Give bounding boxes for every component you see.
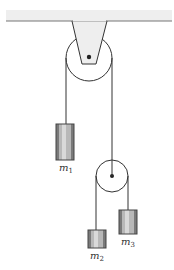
label-m2-symbol: m xyxy=(90,250,99,261)
label-m3-subscript: 3 xyxy=(130,241,134,249)
block-m3 xyxy=(119,210,137,234)
label-m2-subscript: 2 xyxy=(99,255,103,263)
bracket-merge xyxy=(73,19,107,22)
label-m1-subscript: 1 xyxy=(68,167,72,175)
block-m1 xyxy=(56,124,74,160)
pulley-diagram: m1 m2 m3 xyxy=(0,0,174,270)
label-m3: m3 xyxy=(121,236,135,249)
upper-axle-icon xyxy=(87,55,91,59)
label-m1: m1 xyxy=(59,162,73,175)
label-m1-symbol: m xyxy=(59,162,68,173)
label-m3-symbol: m xyxy=(121,236,130,247)
label-m2: m2 xyxy=(90,250,104,263)
block-m2 xyxy=(88,230,106,248)
